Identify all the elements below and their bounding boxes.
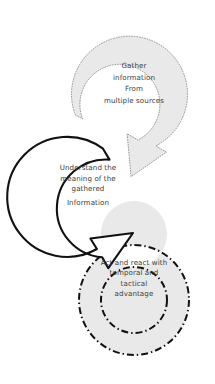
understand-arrow-group (7, 137, 133, 268)
understand-arrow-path (7, 137, 133, 268)
understand-arrow-shape (0, 0, 215, 384)
cycle-diagram: Gather information From multiple sources… (0, 0, 215, 384)
